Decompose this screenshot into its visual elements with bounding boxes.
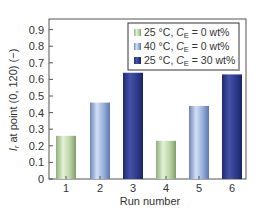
- bar-chart: 00.10.20.30.40.50.60.70.80.9 123456 Run …: [0, 0, 260, 215]
- y-tick-label: 0.5: [29, 90, 44, 102]
- y-tick-label: 0.2: [29, 140, 44, 152]
- legend: 25 °C, CE = 0 wt%40 °C, CE = 0 wt%25 °C,…: [128, 23, 240, 71]
- bar-run-1: [56, 136, 76, 179]
- x-tick-label: 2: [97, 182, 103, 194]
- legend-swatch: [134, 29, 141, 36]
- y-tick-label: 0.9: [29, 24, 44, 36]
- x-tick-label: 6: [229, 182, 235, 194]
- x-tick-label: 5: [196, 182, 202, 194]
- x-tick-label: 1: [63, 182, 69, 194]
- legend-label: 25 °C, CE = 30 wt%: [144, 54, 235, 68]
- x-axis-label: Run number: [120, 195, 181, 207]
- y-tick-label: 0.7: [29, 57, 44, 69]
- legend-swatch: [134, 43, 141, 50]
- x-tick-label: 3: [130, 182, 136, 194]
- bar-run-2: [90, 103, 110, 179]
- y-tick-label: 0.8: [29, 40, 44, 52]
- y-tick-label: 0.6: [29, 73, 44, 85]
- y-tick-label: 0.1: [29, 156, 44, 168]
- y-tick-label: 0.4: [29, 107, 44, 119]
- y-tick-label: 0.3: [29, 123, 44, 135]
- legend-swatch: [134, 57, 141, 64]
- y-axis-label: Ir at point (0, 120) (−): [7, 49, 21, 152]
- y-tick-label: 0: [38, 173, 44, 185]
- bar-run-6: [222, 74, 242, 179]
- bar-run-4: [156, 141, 176, 179]
- bar-run-5: [189, 106, 209, 179]
- x-tick-label: 4: [163, 182, 169, 194]
- bar-run-3: [123, 73, 143, 179]
